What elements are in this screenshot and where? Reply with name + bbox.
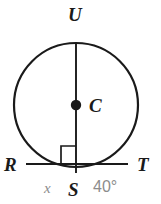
vertex-label-r: R bbox=[4, 155, 17, 174]
arc-measure-label-40deg: 40° bbox=[93, 179, 117, 195]
center-label-c: C bbox=[89, 96, 102, 115]
vertex-label-t: T bbox=[137, 155, 149, 174]
circle-geometry-figure: U C R T S x 40° bbox=[0, 0, 161, 204]
arc-measure-label-x: x bbox=[44, 181, 51, 196]
center-point-dot bbox=[71, 100, 81, 110]
right-angle-icon bbox=[61, 146, 76, 164]
vertex-label-s: S bbox=[68, 180, 79, 199]
vertex-label-u: U bbox=[68, 5, 82, 24]
